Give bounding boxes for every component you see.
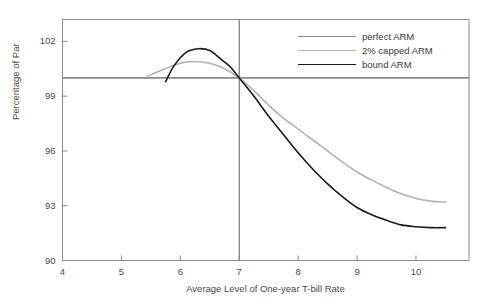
chart-legend: perfect ARM2% capped ARMbound ARM xyxy=(298,30,468,72)
series-line-2-capped-arm xyxy=(148,61,446,202)
legend-swatch-line-icon xyxy=(298,50,356,51)
x-tick-label: 4 xyxy=(53,267,73,277)
x-tick-label: 6 xyxy=(170,267,190,277)
y-tick-label: 99 xyxy=(30,91,56,101)
y-tick-label: 102 xyxy=(30,36,56,46)
legend-item: bound ARM xyxy=(298,58,468,72)
y-axis-title: Percentage of Par xyxy=(10,10,21,120)
y-tick-label: 96 xyxy=(30,146,56,156)
x-tick-label: 10 xyxy=(406,267,426,277)
x-tick-label: 8 xyxy=(288,267,308,277)
y-tick-label: 93 xyxy=(30,201,56,211)
legend-item-label: 2% capped ARM xyxy=(362,44,433,57)
x-tick-label: 9 xyxy=(347,267,367,277)
legend-swatch-line-icon xyxy=(298,64,356,65)
legend-item: perfect ARM xyxy=(298,30,468,44)
x-axis-title: Average Level of One-year T-bill Rate xyxy=(62,283,469,294)
chart-figure: Percentage of Par Average Level of One-y… xyxy=(0,0,487,307)
series-line-bound-arm xyxy=(166,49,446,228)
x-tick-label: 5 xyxy=(111,267,131,277)
legend-swatch-line-icon xyxy=(298,36,356,37)
x-tick-label: 7 xyxy=(229,267,249,277)
legend-item-label: perfect ARM xyxy=(362,30,414,43)
legend-item: 2% capped ARM xyxy=(298,44,468,58)
y-tick-label: 90 xyxy=(30,256,56,266)
legend-item-label: bound ARM xyxy=(362,58,412,71)
